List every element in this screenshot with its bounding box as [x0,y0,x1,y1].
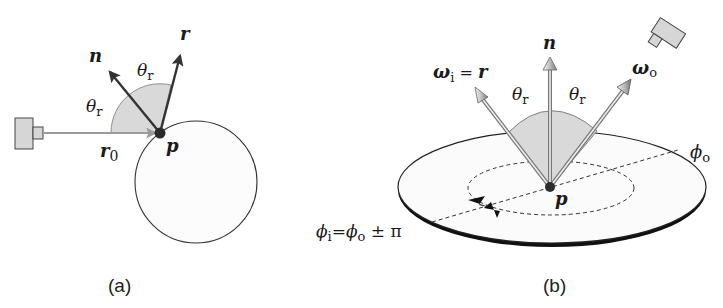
label-p-a: p [166,135,179,156]
cone-arrowhead-icon [543,57,557,70]
label-omega-o: ωo [632,57,657,80]
sphere [135,121,257,243]
label-omega-i: ωi = r [433,61,489,85]
label-p-b: p [555,188,568,209]
camera-icon [15,118,43,149]
panel-a: n r θr θr r0 p (a) [15,23,257,296]
caption-a: (a) [108,275,131,296]
point-p-a [155,128,166,139]
label-r-a: r [180,23,191,44]
label-n-a: n [89,45,102,66]
point-p-b [545,182,555,192]
label-theta-left-a: θr [86,96,103,119]
reflection-geometry-figure: n r θr θr r0 p (a) [0,0,723,308]
label-theta-right-a: θr [137,60,154,83]
label-r0: r0 [100,140,118,164]
caption-b: (b) [543,275,566,296]
label-phi-i-equation: ϕi=ϕo ± π [316,221,402,244]
label-n-b: n [543,32,556,53]
panel-b: n ωi = r ωo θr θr p ϕo ϕi=ϕo ± π (b) [316,18,710,296]
camera-icon [646,18,686,57]
label-theta-right-b: θr [569,84,586,107]
label-theta-left-b: θr [512,84,529,107]
label-phi-o: ϕo [690,141,710,165]
